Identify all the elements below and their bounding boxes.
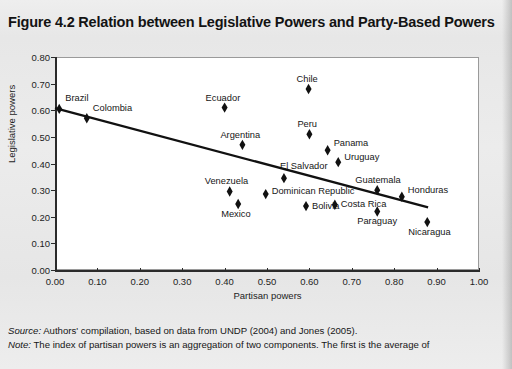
x-tick-label: 0.60: [300, 276, 319, 287]
data-point-label: Dominican Republic: [272, 187, 355, 196]
y-tick-label: 0.80: [32, 52, 56, 63]
scatter-plot-canvas: [55, 57, 479, 270]
data-point-marker[interactable]: [335, 157, 341, 167]
data-point-marker[interactable]: [56, 104, 62, 114]
data-point-label: Bolivia: [312, 202, 339, 211]
x-tick-label: 0.80: [385, 276, 404, 287]
data-point-marker[interactable]: [303, 201, 309, 211]
x-tick-label: 1.00: [470, 276, 489, 287]
x-tick-label: 0.40: [215, 276, 234, 287]
data-point-label: Venezuela: [205, 177, 248, 186]
data-point-marker[interactable]: [222, 102, 228, 112]
figure-footnotes: Source: Authors' compilation, based on d…: [8, 324, 508, 351]
data-point-marker[interactable]: [424, 217, 430, 227]
data-point-label: Argentina: [220, 131, 260, 140]
x-tick-label: 0.30: [173, 276, 192, 287]
source-text: Authors' compilation, based on data from…: [41, 325, 357, 336]
data-point-label: Uruguay: [344, 153, 379, 162]
data-point-label: Honduras: [408, 186, 448, 195]
y-axis-title: Legislative powers: [6, 85, 17, 163]
data-point-label: Peru: [297, 120, 317, 129]
x-tick-label: 0.10: [88, 276, 107, 287]
y-tick-label: 0.70: [32, 78, 56, 89]
x-axis-title: Partisan powers: [55, 290, 480, 301]
data-point-label: Chile: [297, 75, 318, 84]
y-tick-label: 0.40: [32, 158, 56, 169]
figure-title: Figure 4.2 Relation between Legislative …: [8, 14, 506, 30]
source-line: Source: Authors' compilation, based on d…: [8, 324, 508, 338]
data-point-marker[interactable]: [84, 113, 90, 123]
data-point-label: El Salvador: [280, 162, 328, 171]
y-tick-label: 0.50: [32, 131, 56, 142]
y-tick-label: 0.60: [32, 105, 56, 116]
data-point-label: Panama: [334, 139, 369, 148]
x-tick-mark: [479, 268, 480, 272]
x-tick-label: 0.90: [427, 276, 446, 287]
data-point-marker[interactable]: [306, 129, 312, 139]
note-line: Note: The index of partisan powers is an…: [8, 338, 508, 352]
data-point-marker[interactable]: [227, 186, 233, 196]
data-point-marker[interactable]: [239, 140, 245, 150]
x-tick-label: 0.70: [343, 276, 362, 287]
y-tick-label: 0.00: [32, 265, 56, 276]
x-tick-label: 0.50: [258, 276, 277, 287]
x-tick-label: 0.20: [131, 276, 150, 287]
data-point-marker[interactable]: [306, 84, 312, 94]
note-text: The index of partisan powers is an aggre…: [31, 339, 430, 350]
x-tick-label: 0.00: [46, 276, 65, 287]
data-point-label: Ecuador: [206, 94, 241, 103]
data-point-label: Nicaragua: [408, 228, 450, 237]
data-point-label: Colombia: [93, 104, 132, 113]
data-point-label: Paraguay: [357, 217, 397, 226]
data-point-marker[interactable]: [235, 199, 241, 209]
data-point-label: Costa Rica: [341, 200, 386, 209]
y-tick-label: 0.10: [32, 238, 56, 249]
data-point-label: Brazil: [65, 94, 88, 103]
note-label: Note:: [8, 339, 31, 350]
y-tick-label: 0.30: [32, 185, 56, 196]
chart-container: Legislative powers Partisan powers 0.000…: [8, 40, 504, 312]
data-point-marker[interactable]: [263, 189, 269, 199]
source-label: Source:: [8, 325, 41, 336]
data-point-marker[interactable]: [281, 173, 287, 183]
data-point-marker[interactable]: [325, 145, 331, 155]
data-point-label: Guatemala: [355, 176, 400, 185]
data-point-label: Mexico: [221, 210, 250, 219]
y-tick-label: 0.20: [32, 211, 56, 222]
